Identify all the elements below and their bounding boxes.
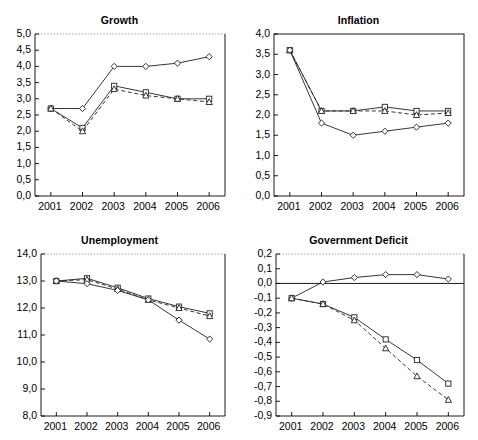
x-tick-label: 2002: [74, 420, 97, 432]
y-tick-label: 8,0: [22, 409, 37, 421]
y-tick-label: 14,0: [17, 247, 37, 259]
y-tick-label: 1,0: [16, 157, 31, 169]
x-tick-label: 2005: [404, 200, 427, 212]
y-tick-label: 2,5: [16, 108, 31, 120]
y-tick-label: 2,5: [255, 88, 270, 100]
x-tick-label: 2003: [101, 200, 124, 212]
deficit-title: Government Deficit: [239, 234, 478, 246]
y-tick-label: 0,0: [16, 189, 31, 201]
x-tick-label: 2003: [105, 420, 128, 432]
y-tick-label: 0,5: [255, 169, 270, 181]
x-tick-label: 2005: [165, 200, 188, 212]
x-tick-label: 2005: [166, 420, 189, 432]
y-tick-label: 0,1: [257, 262, 272, 274]
growth-plot: 0,00,51,01,52,02,53,03,54,04,55,02001200…: [34, 33, 226, 197]
y-tick-label: 3,5: [255, 47, 270, 59]
unemployment-plot: 8,09,010,011,012,013,014,020012002200320…: [40, 253, 226, 417]
x-tick-label: 2003: [342, 420, 365, 432]
y-tick-label: -0,6: [254, 365, 272, 377]
chart-figure: Growth 0,00,51,01,52,02,53,03,54,04,55,0…: [0, 0, 478, 440]
x-tick-label: 2005: [404, 420, 427, 432]
y-tick-label: 2,0: [16, 124, 31, 136]
x-tick-label: 2006: [196, 200, 219, 212]
inflation-plot: 0,00,51,01,52,02,53,03,54,02001200220032…: [273, 33, 465, 197]
y-tick-label: 2,0: [255, 108, 270, 120]
x-tick-label: 2001: [277, 200, 300, 212]
unemployment-title: Unemployment: [0, 234, 239, 246]
x-tick-label: 2006: [197, 420, 220, 432]
y-tick-label: -0,2: [254, 306, 272, 318]
y-tick-label: 4,0: [255, 27, 270, 39]
y-tick-label: -0,3: [254, 321, 272, 333]
x-tick-label: 2003: [340, 200, 363, 212]
y-tick-label: 0,0: [257, 276, 272, 288]
panel-growth: Growth 0,00,51,01,52,02,53,03,54,04,55,0…: [0, 0, 239, 220]
x-tick-label: 2002: [70, 200, 93, 212]
y-tick-label: 3,5: [16, 76, 31, 88]
y-tick-label: 12,0: [17, 301, 37, 313]
y-tick-label: 11,0: [17, 328, 37, 340]
x-tick-label: 2004: [372, 200, 395, 212]
y-tick-label: 0,2: [257, 247, 272, 259]
x-tick-label: 2006: [435, 200, 458, 212]
growth-title: Growth: [0, 14, 239, 26]
y-tick-label: -0,1: [254, 291, 272, 303]
y-tick-label: 1,5: [16, 140, 31, 152]
x-tick-label: 2004: [133, 200, 156, 212]
y-tick-label: 10,0: [17, 355, 37, 367]
deficit-plot: -0,9-0,8-0,7-0,6-0,5-0,4-0,3-0,2-0,10,00…: [275, 253, 465, 417]
y-tick-label: 5,0: [16, 27, 31, 39]
y-tick-label: -0,9: [254, 409, 272, 421]
y-tick-label: 3,0: [255, 68, 270, 80]
x-tick-label: 2004: [136, 420, 159, 432]
x-tick-label: 2006: [436, 420, 459, 432]
y-tick-label: 9,0: [22, 382, 37, 394]
x-tick-label: 2001: [279, 420, 302, 432]
y-tick-label: 4,5: [16, 43, 31, 55]
x-tick-label: 2001: [38, 200, 61, 212]
y-tick-label: -0,8: [254, 394, 272, 406]
x-tick-label: 2002: [309, 200, 332, 212]
y-tick-label: -0,7: [254, 380, 272, 392]
panel-unemployment: Unemployment 8,09,010,011,012,013,014,02…: [0, 220, 239, 440]
panel-deficit: Government Deficit -0,9-0,8-0,7-0,6-0,5-…: [239, 220, 478, 440]
x-tick-label: 2004: [373, 420, 396, 432]
y-tick-label: 1,0: [255, 149, 270, 161]
y-tick-label: 4,0: [16, 59, 31, 71]
inflation-title: Inflation: [239, 14, 478, 26]
y-tick-label: 3,0: [16, 92, 31, 104]
y-tick-label: 0,0: [255, 189, 270, 201]
y-tick-label: 13,0: [17, 274, 37, 286]
x-tick-label: 2001: [44, 420, 67, 432]
y-tick-label: -0,4: [254, 335, 272, 347]
y-tick-label: -0,5: [254, 350, 272, 362]
x-tick-label: 2002: [310, 420, 333, 432]
y-tick-label: 1,5: [255, 128, 270, 140]
panel-inflation: Inflation 0,00,51,01,52,02,53,03,54,0200…: [239, 0, 478, 220]
y-tick-label: 0,5: [16, 173, 31, 185]
